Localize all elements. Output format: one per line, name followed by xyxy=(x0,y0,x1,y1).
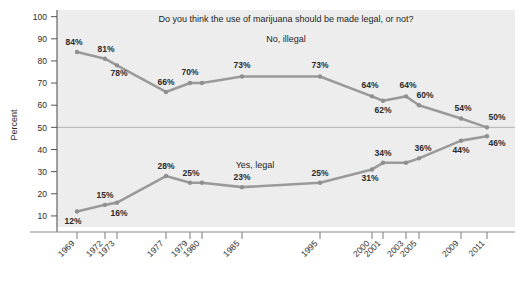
point-value-label: 36% xyxy=(414,143,431,153)
data-point xyxy=(164,174,168,178)
data-point xyxy=(370,94,374,98)
point-value-label: 62% xyxy=(374,105,391,115)
point-value-label: 70% xyxy=(181,67,198,77)
point-value-label: 84% xyxy=(65,37,82,47)
point-value-label: 34% xyxy=(374,148,391,158)
y-tick-label: 90 xyxy=(38,34,48,44)
data-point xyxy=(115,200,119,204)
data-point xyxy=(240,185,244,189)
point-value-label: 16% xyxy=(110,208,127,218)
data-point xyxy=(404,94,408,98)
y-tick-label: 30 xyxy=(38,167,48,177)
y-tick-label: 40 xyxy=(38,145,48,155)
y-tick-label: 100 xyxy=(33,12,47,22)
chart-container: 102030405060708090100 196919721973197719… xyxy=(0,0,522,282)
data-point xyxy=(75,209,79,213)
data-point xyxy=(485,125,489,129)
point-value-label: 44% xyxy=(452,145,469,155)
data-point xyxy=(164,90,168,94)
series-label-no-illegal: No, illegal xyxy=(266,34,306,44)
y-tick-label: 10 xyxy=(38,211,48,221)
point-value-label: 64% xyxy=(399,80,416,90)
point-value-label: 73% xyxy=(233,60,250,70)
data-point xyxy=(188,181,192,185)
data-point xyxy=(115,63,119,67)
line-chart: 102030405060708090100 196919721973197719… xyxy=(0,0,522,282)
point-value-label: 46% xyxy=(488,138,505,148)
point-value-label: 78% xyxy=(110,68,127,78)
data-point xyxy=(103,57,107,61)
data-point xyxy=(75,50,79,54)
chart-title: Do you think the use of marijuana should… xyxy=(158,14,413,24)
point-value-label: 25% xyxy=(182,168,199,178)
data-point xyxy=(381,99,385,103)
data-point xyxy=(417,156,421,160)
point-value-label: 23% xyxy=(233,172,250,182)
point-value-label: 50% xyxy=(488,112,505,122)
point-value-label: 25% xyxy=(311,168,328,178)
point-value-label: 12% xyxy=(64,216,81,226)
data-point xyxy=(200,181,204,185)
series-label-yes-legal: Yes, legal xyxy=(236,160,275,170)
data-point xyxy=(417,103,421,107)
y-tick-label: 80 xyxy=(38,56,48,66)
data-point xyxy=(240,74,244,78)
point-value-label: 15% xyxy=(96,190,113,200)
point-value-label: 81% xyxy=(97,44,114,54)
data-point xyxy=(200,81,204,85)
y-tick-label: 60 xyxy=(38,100,48,110)
y-tick-label: 50 xyxy=(38,123,48,133)
data-point xyxy=(318,74,322,78)
data-point xyxy=(370,167,374,171)
data-point xyxy=(188,81,192,85)
y-axis-title: Percent xyxy=(9,109,19,141)
point-value-label: 64% xyxy=(361,80,378,90)
point-value-label: 66% xyxy=(157,77,174,87)
data-point xyxy=(404,161,408,165)
point-value-label: 60% xyxy=(416,90,433,100)
point-value-label: 54% xyxy=(454,103,471,113)
point-value-label: 28% xyxy=(157,161,174,171)
data-point xyxy=(459,116,463,120)
data-point xyxy=(318,181,322,185)
data-point xyxy=(459,138,463,142)
point-value-label: 31% xyxy=(361,173,378,183)
y-tick-label: 70 xyxy=(38,78,48,88)
data-point xyxy=(103,203,107,207)
data-point xyxy=(381,161,385,165)
point-value-label: 73% xyxy=(311,60,328,70)
y-tick-label: 20 xyxy=(38,189,48,199)
